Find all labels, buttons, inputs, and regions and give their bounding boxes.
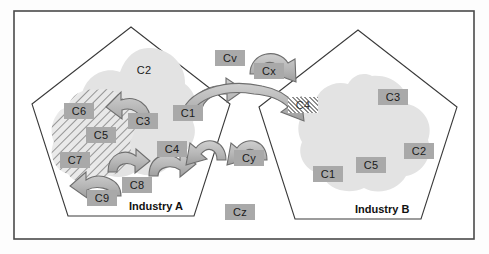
caption-industry-b: Industry B <box>355 203 409 215</box>
label-industry-b-c5[interactable]: C5 <box>356 157 386 173</box>
diagram-canvas: C2 C3 C1 C4 C6 C5 C7 C8 C9 C3 C2 C5 C1 C… <box>0 0 489 254</box>
label-industry-b-c2[interactable]: C2 <box>404 143 434 159</box>
label-industry-a-c6[interactable]: C6 <box>64 103 94 119</box>
label-industry-a-c9[interactable]: C9 <box>87 190 117 206</box>
label-cz[interactable]: Cz <box>225 204 255 220</box>
label-cx[interactable]: Cx <box>254 63 284 79</box>
label-c4-hatched[interactable]: C4 <box>288 97 318 113</box>
label-industry-a-c7[interactable]: C7 <box>60 152 90 168</box>
label-cv[interactable]: Cv <box>215 50 245 66</box>
label-industry-a-c5[interactable]: C5 <box>86 127 116 143</box>
label-industry-a-c3[interactable]: C3 <box>128 113 158 129</box>
label-industry-a-c2[interactable]: C2 <box>129 62 159 78</box>
label-industry-a-c4[interactable]: C4 <box>157 141 187 157</box>
label-cy[interactable]: Cy <box>234 150 264 166</box>
label-industry-a-c1[interactable]: C1 <box>173 105 203 121</box>
label-industry-b-c1[interactable]: C1 <box>313 166 343 182</box>
label-industry-a-c8[interactable]: C8 <box>122 177 152 193</box>
caption-industry-a: Industry A <box>129 200 183 212</box>
label-industry-b-c3[interactable]: C3 <box>378 89 408 105</box>
